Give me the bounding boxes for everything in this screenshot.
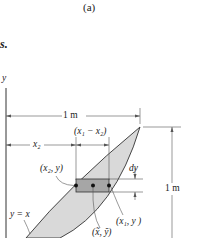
x1-minus-x2-label: (x₁ − x₂)	[74, 127, 107, 137]
point-right-dot	[107, 184, 111, 188]
x2-label: x₂	[33, 140, 41, 150]
point-right-label: (x₁, y )	[116, 217, 141, 227]
height-dimension-label: 1 m	[165, 184, 180, 194]
figure-caption: (a)	[83, 2, 95, 13]
point-left-label: (x₂, y)	[40, 164, 63, 174]
point-left-dot	[74, 184, 78, 188]
dy-label: dy	[129, 164, 138, 174]
figure-graphic	[0, 0, 199, 238]
width-dimension-label: 1 m	[63, 111, 78, 121]
centroid-label: (x̃, ỹ)	[92, 228, 112, 238]
centroid-dot	[91, 184, 95, 188]
area-figure: (a) s. y 1 m (x₁ − x₂) x₂ (x₂, y) dy 1 m…	[0, 0, 199, 238]
curve-label: y = x	[10, 210, 30, 220]
text-fragment: s.	[0, 38, 8, 50]
y-axis-label: y	[2, 74, 6, 84]
